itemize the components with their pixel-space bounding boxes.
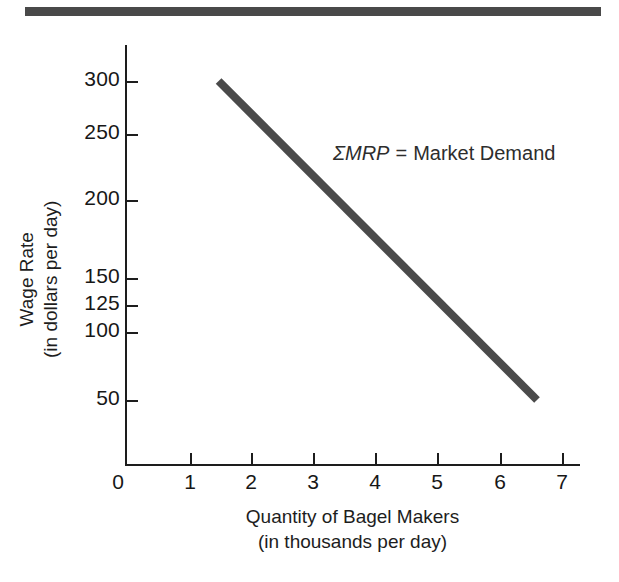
market-demand-text: Market Demand	[413, 142, 555, 164]
sigma-mrp-symbol: ΣMRP	[333, 142, 389, 164]
y-axis-title-sub: (in dollars per day)	[39, 164, 63, 394]
x-axis-title-main: Quantity of Bagel Makers	[125, 505, 580, 530]
demand-curve-svg	[0, 0, 619, 582]
x-axis-title: Quantity of Bagel Makers (in thousands p…	[125, 505, 580, 554]
y-axis-title: Wage Rate (in dollars per day)	[15, 164, 64, 394]
market-demand-annotation: ΣMRP=Market Demand	[333, 142, 555, 165]
x-axis-title-sub: (in thousands per day)	[125, 530, 580, 555]
market-demand-line	[219, 81, 537, 400]
y-axis-title-main: Wage Rate	[15, 164, 39, 394]
figure-container: 300 250 200 150 125 100 50 0 1 2 3	[0, 0, 619, 582]
equals-sign: =	[389, 142, 413, 164]
plot-area: 300 250 200 150 125 100 50 0 1 2 3	[0, 0, 619, 582]
